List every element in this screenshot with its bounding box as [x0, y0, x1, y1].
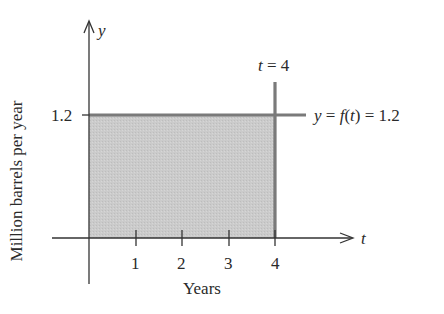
x-axis-symbol: t — [361, 230, 366, 247]
x-tick-label-1: 1 — [131, 255, 140, 272]
y-tick-label-1-2: 1.2 — [51, 107, 72, 124]
annotation-t-equals-4: t = 4 — [258, 57, 289, 74]
chart-canvas — [0, 0, 444, 314]
annotation-function-label: y = f(t) = 1.2 — [314, 107, 400, 124]
y-axis-title: Million barrels per year — [2, 96, 32, 266]
annotation-equals: = — [322, 106, 340, 125]
area-under-curve — [89, 115, 275, 238]
annotation-t-rest: = 4 — [263, 56, 290, 75]
x-tick-label-2: 2 — [177, 255, 186, 272]
x-axis-title: Years — [183, 280, 221, 297]
annotation-y-var: y — [314, 106, 322, 125]
x-tick-label-4: 4 — [271, 255, 280, 272]
y-axis-symbol: y — [98, 22, 106, 39]
y-axis-title-text: Million barrels per year — [7, 101, 27, 262]
x-tick-label-3: 3 — [224, 255, 233, 272]
annotation-value: ) = 1.2 — [355, 106, 400, 125]
